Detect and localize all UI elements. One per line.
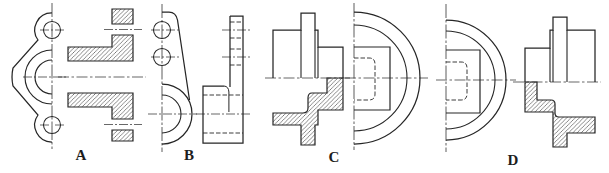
square-boss-edge xyxy=(446,50,480,113)
options-drawing-canvas xyxy=(0,0,609,173)
option-c-drawing xyxy=(265,3,428,150)
option-c-label: C xyxy=(329,150,340,165)
fillet-and-tangent-edge xyxy=(224,86,229,112)
center-line-marks xyxy=(23,30,68,125)
hatch-region xyxy=(68,93,133,119)
option-d-drawing xyxy=(436,4,601,152)
option-d-front-half-view xyxy=(436,4,516,152)
option-c-front-half-view xyxy=(345,3,428,150)
option-d-label: D xyxy=(508,153,519,168)
flange-edges xyxy=(301,30,318,78)
option-a-section-view xyxy=(58,9,146,141)
option-a-drawing xyxy=(12,3,146,149)
option-c-half-section-view xyxy=(265,13,350,145)
hatch-region xyxy=(525,82,595,147)
hatch-region xyxy=(112,9,133,24)
option-b-side-view xyxy=(196,16,252,143)
bracket-outline xyxy=(203,16,243,143)
hatch-region xyxy=(273,78,343,145)
square-boss-edge xyxy=(354,47,390,110)
option-b-label: B xyxy=(184,148,194,163)
hatch-region xyxy=(112,130,133,141)
option-b-drawing xyxy=(148,4,252,152)
plate-outline xyxy=(12,13,52,142)
engineering-drawing-figure: A B C D xyxy=(0,0,609,173)
hidden-square-hole xyxy=(446,62,467,100)
option-a-front-half-view xyxy=(12,3,68,149)
hidden-square-hole xyxy=(354,58,375,100)
option-b-front-half-view xyxy=(148,4,197,152)
option-d-half-section-view xyxy=(513,17,601,147)
upper-outline xyxy=(273,13,343,78)
upper-outline xyxy=(525,17,595,82)
flange-inner-arc xyxy=(354,25,407,131)
hatch-region xyxy=(68,35,133,61)
hidden-hole-lines xyxy=(203,22,243,133)
option-a-label: A xyxy=(76,148,87,163)
flange-edges xyxy=(550,30,567,82)
